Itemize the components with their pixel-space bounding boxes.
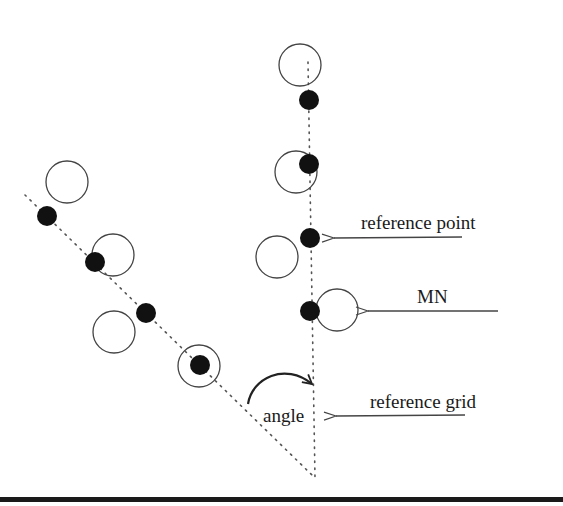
reference-point-dot — [37, 206, 57, 226]
reference-grid-vertical-line — [308, 62, 315, 478]
mn-circle — [279, 44, 321, 86]
vertical-grid-group — [256, 44, 358, 331]
mn-circle — [93, 311, 135, 353]
reference-point-label: reference point — [361, 212, 476, 233]
angle-label: angle — [263, 405, 304, 426]
diagram-canvas: angle reference point MN reference grid — [0, 0, 563, 506]
reference-point-dot — [136, 303, 156, 323]
mn-circle — [316, 289, 358, 331]
reference-point-dot — [85, 252, 105, 272]
bottom-rule — [0, 497, 563, 502]
diagonal-grid-group — [37, 161, 220, 387]
reference-point-dot — [190, 355, 210, 375]
reference-point-dot — [299, 90, 319, 110]
reference-point-dot — [300, 228, 320, 248]
reference-point-arrow — [334, 237, 462, 238]
reference-point-dot — [299, 154, 319, 174]
mn-circle — [256, 236, 298, 278]
angle-arc-arrow — [248, 374, 312, 404]
reference-point-dot — [300, 301, 320, 321]
reference-grid-arrow — [336, 415, 465, 416]
mn-circle — [46, 161, 88, 203]
mn-label: MN — [417, 286, 448, 307]
reference-grid-label: reference grid — [370, 391, 477, 412]
